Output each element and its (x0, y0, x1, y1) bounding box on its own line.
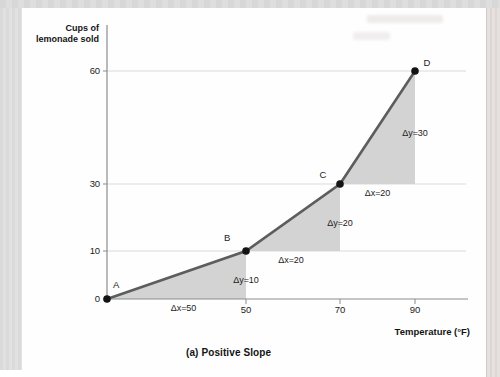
delta-y-label-1: Δy=10 (233, 275, 258, 285)
delta-y-label-3: Δy=30 (402, 128, 427, 138)
y-tick-label-10: 10 (90, 245, 100, 256)
slope-line (107, 71, 415, 299)
y-tick-label-30: 30 (90, 178, 100, 189)
point-label-D: D (424, 57, 431, 68)
point-label-A: A (113, 279, 120, 290)
delta-x-label-1: Δx=50 (171, 303, 196, 313)
delta-y-label-2: Δy=20 (327, 218, 352, 228)
x-tick-label-50: 50 (241, 304, 251, 315)
figure-caption: (a) Positive Slope (186, 347, 271, 358)
lemonade-slope-chart: Δx=50Δy=10Δx=20Δy=20Δx=20Δy=300103060507… (0, 0, 500, 377)
data-point-A (103, 295, 111, 303)
point-label-B: B (224, 232, 230, 243)
x-tick-label-90: 90 (410, 304, 420, 315)
scanned-textbook-page: Cups of lemonade sold Δx=50Δy=10Δx=20Δy=… (0, 0, 500, 377)
delta-x-label-3: Δx=20 (365, 188, 390, 198)
x-axis-title: Temperature (°F) (395, 326, 470, 337)
x-tick-label-70: 70 (335, 304, 345, 315)
data-point-C (336, 180, 344, 188)
y-tick-label-60: 60 (90, 65, 100, 76)
y-tick-label-0: 0 (95, 293, 100, 304)
delta-x-label-2: Δx=20 (278, 255, 303, 265)
data-point-B (242, 247, 250, 255)
point-label-C: C (320, 169, 327, 180)
data-point-D (411, 67, 419, 75)
